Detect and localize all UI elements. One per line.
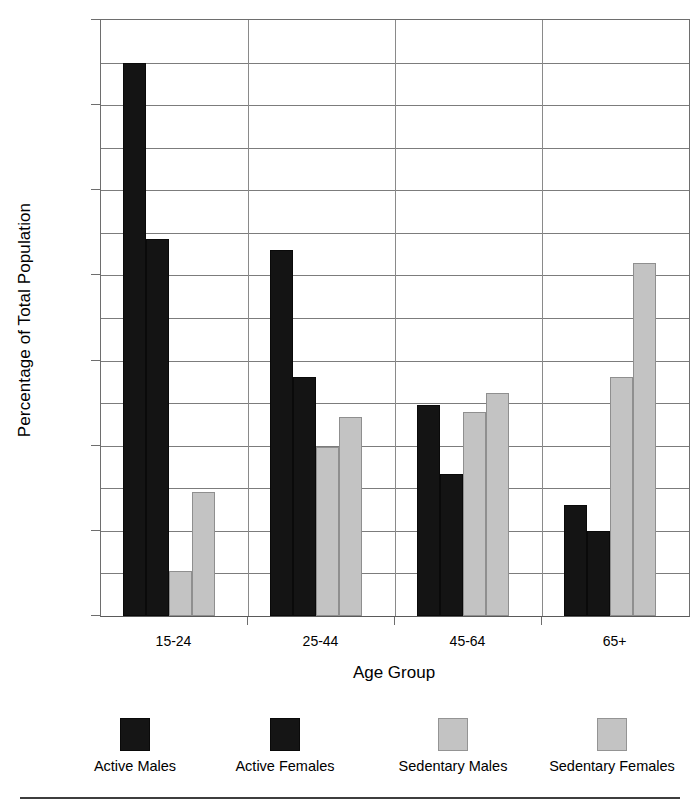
plot-area bbox=[100, 19, 690, 617]
bar bbox=[316, 447, 339, 616]
y-tick-mark bbox=[91, 530, 100, 531]
y-tick-mark bbox=[91, 360, 100, 361]
x-tick-label: 25-44 bbox=[241, 633, 401, 649]
x-axis-title: Age Group bbox=[100, 663, 688, 683]
light-square-icon bbox=[438, 718, 468, 751]
bar bbox=[339, 417, 362, 616]
bar bbox=[633, 263, 656, 616]
dark-square-icon bbox=[120, 718, 150, 751]
legend-label: Sedentary Males bbox=[368, 758, 538, 774]
x-tick-label: 15-24 bbox=[94, 633, 254, 649]
y-tick-mark bbox=[91, 615, 100, 616]
y-tick-mark bbox=[91, 19, 100, 20]
light-square-icon bbox=[597, 718, 627, 751]
x-tick-mark bbox=[394, 616, 395, 625]
x-tick-mark bbox=[541, 616, 542, 625]
legend-label: Active Males bbox=[50, 758, 220, 774]
legend-item: Active Males bbox=[50, 718, 220, 774]
bar bbox=[270, 250, 293, 616]
dark-square-icon bbox=[270, 718, 300, 751]
bar bbox=[192, 492, 215, 616]
legend-item: Sedentary Males bbox=[368, 718, 538, 774]
bar bbox=[587, 531, 610, 616]
bar bbox=[440, 474, 463, 616]
bar bbox=[486, 393, 509, 616]
bar bbox=[610, 377, 633, 616]
legend-label: Active Females bbox=[200, 758, 370, 774]
y-tick-mark bbox=[91, 104, 100, 105]
bars-layer bbox=[101, 20, 689, 616]
x-tick-label: 45-64 bbox=[388, 633, 548, 649]
bar bbox=[146, 239, 169, 616]
y-tick-mark bbox=[91, 189, 100, 190]
y-axis-title: Percentage of Total Population bbox=[15, 160, 35, 480]
bottom-divider bbox=[20, 797, 680, 799]
bar bbox=[463, 412, 486, 616]
x-tick-label: 65+ bbox=[535, 633, 695, 649]
bar bbox=[564, 505, 587, 616]
chart-legend: Active MalesActive FemalesSedentary Male… bbox=[0, 718, 699, 780]
y-tick-mark bbox=[91, 274, 100, 275]
legend-item: Active Females bbox=[200, 718, 370, 774]
legend-label: Sedentary Females bbox=[527, 758, 697, 774]
bar bbox=[123, 63, 146, 616]
bar bbox=[293, 377, 316, 616]
x-tick-mark bbox=[247, 616, 248, 625]
legend-item: Sedentary Females bbox=[527, 718, 697, 774]
bar-chart-figure: Percentage of Total Population 010203040… bbox=[0, 0, 699, 806]
y-tick-mark bbox=[91, 445, 100, 446]
bar bbox=[417, 405, 440, 616]
bar bbox=[169, 571, 192, 616]
